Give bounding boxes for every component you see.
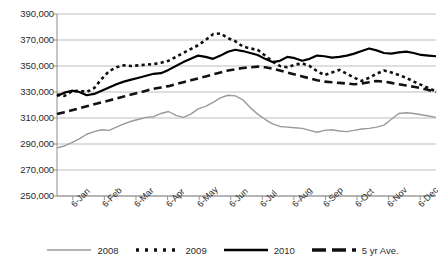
y-axis-tick-label: 310,000 [0, 112, 54, 123]
chart-legend: 2008200920105 yr Ave. [0, 240, 446, 260]
legend-label-2008: 2008 [97, 245, 118, 256]
legend-label-2009: 2009 [186, 245, 207, 256]
y-axis-tick-label: 330,000 [0, 86, 54, 97]
gridlines [54, 14, 436, 196]
y-axis-tick-label: 390,000 [0, 8, 54, 19]
legend-item-2008[interactable]: 2008 [47, 245, 118, 256]
legend-item-2009[interactable]: 2009 [136, 245, 207, 256]
chart-plot-area [0, 0, 446, 263]
legend-label-5-yr-ave: 5 yr Ave. [362, 245, 399, 256]
legend-label-2010: 2010 [274, 245, 295, 256]
y-axis-tick-label: 350,000 [0, 60, 54, 71]
legend-swatch-5-yr-ave [312, 245, 356, 255]
legend-item-5-yr-ave[interactable]: 5 yr Ave. [312, 245, 399, 256]
legend-swatch-2010 [224, 245, 268, 255]
y-axis-tick-label: 370,000 [0, 34, 54, 45]
legend-swatch-2008 [47, 245, 91, 255]
y-axis-tick-label: 270,000 [0, 164, 54, 175]
y-axis-tick-label: 250,000 [0, 190, 54, 201]
line-chart: 390,000370,000350,000330,000310,000290,0… [0, 0, 446, 263]
series-line-2008 [57, 95, 436, 148]
y-axis-tick-label: 290,000 [0, 138, 54, 149]
legend-swatch-2009 [136, 245, 180, 255]
legend-item-2010[interactable]: 2010 [224, 245, 295, 256]
data-series-layer [57, 34, 436, 148]
series-line-2009 [57, 34, 436, 96]
